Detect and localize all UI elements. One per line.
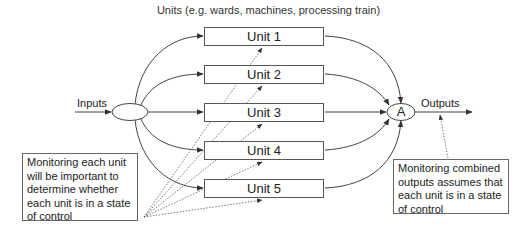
input-splitter-node <box>112 104 148 121</box>
connector-input-unit2 <box>141 74 203 105</box>
connector-input-unit5 <box>135 120 203 188</box>
note-monitor-combined-outputs: Monitoring combined outputs assumes that… <box>393 159 509 214</box>
outputs-label: Outputs <box>421 97 460 109</box>
unit-box-3: Unit 3 <box>204 103 324 122</box>
connector-unit4-a <box>325 119 389 150</box>
diagram-title: Units (e.g. wards, machines, processing … <box>0 4 531 16</box>
unit-box-1: Unit 1 <box>204 27 324 46</box>
connector-input-unit1 <box>135 36 203 104</box>
aggregate-node-label: A <box>391 104 411 119</box>
connector-unit2-a <box>325 74 389 105</box>
connector-unit5-a <box>325 121 401 188</box>
inputs-label: Inputs <box>77 97 107 109</box>
unit-box-5: Unit 5 <box>204 179 324 198</box>
right-note-pointer <box>440 115 448 158</box>
note-monitor-each-unit: Monitoring each unit will be important t… <box>22 153 138 221</box>
unit-box-4: Unit 4 <box>204 141 324 160</box>
unit-box-2: Unit 2 <box>204 65 324 84</box>
process-monitoring-diagram: Units (e.g. wards, machines, processing … <box>0 0 531 229</box>
connector-unit1-a <box>325 36 401 103</box>
